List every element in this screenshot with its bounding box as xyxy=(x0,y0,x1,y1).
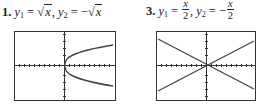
exercise-3-label: 3.y1 = x2, y2 = −x2 xyxy=(146,1,235,23)
exercise-number: 3. xyxy=(146,4,155,18)
fraction: x2 xyxy=(227,0,234,21)
sqrt-expression: √x xyxy=(88,4,102,20)
sqrt-expression: √x xyxy=(37,4,51,20)
fraction: x2 xyxy=(182,0,189,21)
graph-lines xyxy=(156,31,256,101)
graph-lines-plot xyxy=(156,31,256,101)
graph-sqrt-plot xyxy=(14,31,116,101)
exercise-number: 1. xyxy=(2,5,11,19)
exercise-1-label: 1.y1 = √x, y2 = −√x xyxy=(2,4,102,24)
graph-sqrt xyxy=(14,31,116,101)
